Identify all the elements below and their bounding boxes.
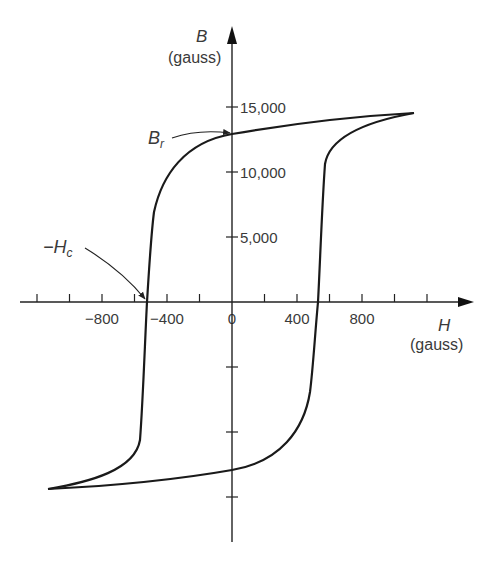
y-axis-symbol: B (196, 27, 207, 46)
y-tick-label: 15,000 (240, 99, 286, 116)
y-axis-unit: (gauss) (168, 49, 221, 66)
remanence-label: Br (148, 128, 165, 151)
x-axis: −800−4000400800 H (gauss) (20, 294, 474, 353)
y-axis-tick-labels: 15,00010,0005,000 (240, 99, 286, 246)
x-axis-unit: (gauss) (410, 336, 463, 353)
coercivity-arrow (85, 248, 145, 299)
y-axis-arrowhead (227, 26, 237, 44)
x-tick-label: 800 (349, 310, 374, 327)
y-tick-label: 5,000 (240, 229, 278, 246)
coercivity-label: −Hc (43, 237, 73, 260)
x-tick-label: −400 (150, 310, 184, 327)
y-axis: 15,00010,0005,000 B (gauss) (168, 26, 286, 542)
x-axis-symbol: H (438, 316, 451, 335)
x-tick-label: −800 (85, 310, 119, 327)
remanence-annotation: Br (148, 128, 230, 151)
x-axis-tick-labels: −800−4000400800 (85, 310, 374, 327)
x-axis-arrowhead (458, 297, 474, 307)
y-tick-label: 10,000 (240, 164, 286, 181)
hysteresis-chart: −800−4000400800 H (gauss) 15,00010,0005,… (0, 0, 493, 567)
coercivity-annotation: −Hc (43, 237, 145, 299)
x-tick-label: 400 (284, 310, 309, 327)
